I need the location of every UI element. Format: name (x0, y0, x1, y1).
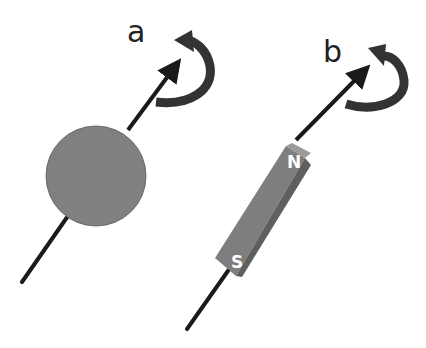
panel-a: a (22, 14, 210, 282)
curved-rotation-arrow-icon (346, 44, 404, 107)
panel-b: N S b (187, 34, 404, 329)
spin-diagram: a N S b (0, 0, 426, 348)
panel-a-label: a (127, 14, 145, 49)
panel-b-label: b (323, 34, 342, 69)
south-pole-label: S (231, 252, 243, 272)
rotation-axis-lower (187, 268, 230, 329)
curved-rotation-arrow-icon (156, 30, 210, 103)
sphere (46, 126, 146, 226)
rotation-axis-lower (22, 213, 70, 282)
north-pole-label: N (287, 152, 301, 172)
